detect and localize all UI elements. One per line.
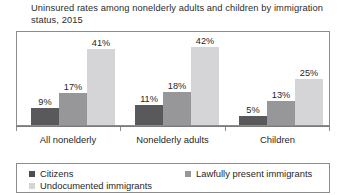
legend-swatch-icon xyxy=(29,183,35,189)
x-axis-label-children: Children xyxy=(225,133,330,146)
bar-value-label: 5% xyxy=(246,105,259,115)
legend-item-undocumented-immigrants: Undocumented immigrants xyxy=(29,180,152,192)
bar-value-label: 9% xyxy=(38,97,51,107)
legend-label: Lawfully present immigrants xyxy=(196,168,312,180)
legend-swatch-icon xyxy=(29,171,35,177)
legend-item-citizens: Citizens xyxy=(29,168,73,180)
bar-value-label: 13% xyxy=(272,90,290,100)
bar-group-nonelderly-adults: 11% 18% 42% xyxy=(135,32,221,125)
bar-group-children: 5% 13% 25% xyxy=(239,32,325,125)
bar-all-nonelderly-lawfully-present: 17% xyxy=(59,93,87,125)
legend-swatch-icon xyxy=(185,171,191,177)
legend: Citizens Lawfully present immigrants Und… xyxy=(16,163,330,193)
bar-all-nonelderly-citizens: 9% xyxy=(31,108,59,125)
x-axis-tick xyxy=(329,127,330,131)
bar-value-label: 18% xyxy=(168,81,186,91)
bar-value-label: 11% xyxy=(140,94,158,104)
legend-item-lawfully-present-immigrants: Lawfully present immigrants xyxy=(185,168,312,180)
x-axis-label-nonelderly-adults: Nonelderly adults xyxy=(120,133,225,146)
bar-nonelderly-adults-undocumented: 42% xyxy=(191,47,219,125)
plot-area: 9% 17% 41% 11% 18% 42% 5% 13% 25% xyxy=(17,32,329,125)
x-axis-tick xyxy=(16,127,17,131)
legend-label: Undocumented immigrants xyxy=(40,180,152,192)
chart-title-line-1: Uninsured rates among nonelderly adults … xyxy=(31,3,271,13)
x-axis-label-all-nonelderly: All nonelderly xyxy=(16,133,120,146)
bar-all-nonelderly-undocumented: 41% xyxy=(87,49,115,125)
bar-value-label: 42% xyxy=(196,36,214,46)
bar-value-label: 41% xyxy=(92,38,110,48)
legend-label: Citizens xyxy=(40,168,73,180)
bar-value-label: 25% xyxy=(300,68,318,78)
bar-children-undocumented: 25% xyxy=(295,79,323,126)
x-axis-line xyxy=(16,126,330,127)
bar-children-lawfully-present: 13% xyxy=(267,101,295,125)
x-axis-tick xyxy=(225,127,226,131)
bar-children-citizens: 5% xyxy=(239,116,267,125)
chart-title: Uninsured rates among nonelderly adults … xyxy=(31,2,331,27)
x-axis-tick xyxy=(120,127,121,131)
bar-value-label: 17% xyxy=(64,82,82,92)
x-axis-labels: All nonelderly Nonelderly adults Childre… xyxy=(16,133,330,149)
bar-nonelderly-adults-citizens: 11% xyxy=(135,105,163,125)
bar-nonelderly-adults-lawfully-present: 18% xyxy=(163,92,191,125)
bar-group-all-nonelderly: 9% 17% 41% xyxy=(31,32,117,125)
